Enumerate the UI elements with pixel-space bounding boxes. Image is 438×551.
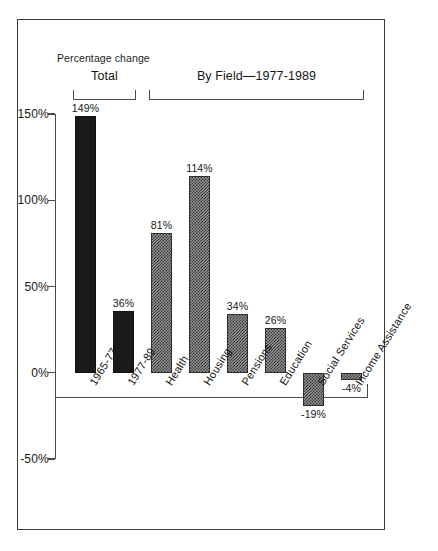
- bar-value-label: -19%: [288, 408, 339, 420]
- bar-value-label: 34%: [212, 300, 263, 312]
- y-axis-tick-label: 50%: [24, 280, 49, 294]
- bar: [227, 314, 248, 373]
- bar-value-label: 36%: [98, 297, 149, 309]
- y-axis-tick-label: 100%: [18, 193, 50, 207]
- y-axis-tick-label: 150%: [18, 107, 50, 121]
- bar-value-label: 114%: [174, 162, 225, 174]
- y-axis-line: [55, 114, 56, 459]
- bar-value-label: 81%: [136, 219, 187, 231]
- bar: [75, 116, 96, 373]
- group-bracket: [149, 90, 364, 100]
- y-axis-tick-label: -50%: [20, 452, 49, 466]
- group-bracket: [73, 90, 136, 100]
- group-bracket-label: By Field—1977-1989: [149, 69, 364, 83]
- bar: [189, 176, 210, 373]
- bar-value-label: 26%: [250, 314, 301, 326]
- y-axis-tick-label: 0%: [31, 366, 49, 380]
- bar-value-label: 149%: [60, 102, 111, 114]
- bar: [113, 311, 134, 373]
- chart-figure: Percentage change TotalBy Field—1977-198…: [0, 0, 438, 551]
- bar-value-label: -4%: [326, 382, 377, 394]
- y-axis-title: Percentage change: [57, 52, 150, 64]
- group-bracket-label: Total: [73, 69, 136, 83]
- plot-area: 150%100%50%0%-50% 149%36%81%114%34%26%-1…: [55, 114, 365, 459]
